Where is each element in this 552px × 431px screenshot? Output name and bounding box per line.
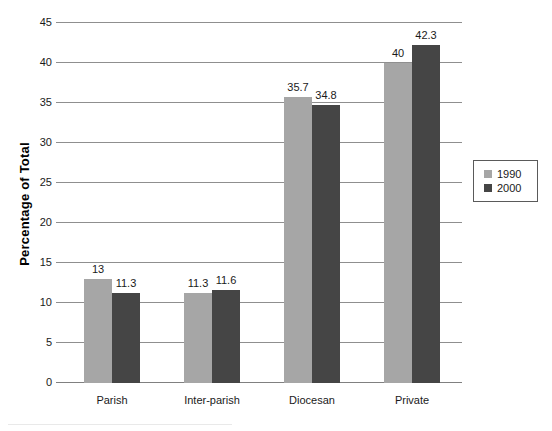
value-label: 11.3 xyxy=(101,277,151,290)
y-tick-label: 35 xyxy=(12,97,52,108)
bar-1990-private xyxy=(384,63,412,383)
y-tick-label: 15 xyxy=(12,257,52,268)
y-tick-label: 30 xyxy=(12,137,52,148)
legend-item-2000: 2000 xyxy=(484,181,537,195)
bar-chart: Percentage of Total 05101520253035404513… xyxy=(0,0,552,431)
y-tick-label: 0 xyxy=(12,377,52,388)
gridline xyxy=(56,22,462,23)
bar-2000-parish xyxy=(112,293,140,383)
y-tick-label: 5 xyxy=(12,337,52,348)
x-category-label: Diocesan xyxy=(262,394,362,406)
y-tick-label: 25 xyxy=(12,177,52,188)
y-tick-label: 40 xyxy=(12,57,52,68)
legend-label: 1990 xyxy=(497,167,521,181)
value-label: 11.6 xyxy=(201,274,251,287)
x-category-label: Private xyxy=(362,394,462,406)
y-tick-label: 20 xyxy=(12,217,52,228)
x-category-label: Inter-parish xyxy=(162,394,262,406)
y-tick-label: 45 xyxy=(12,17,52,28)
bar-1990-inter-parish xyxy=(184,293,212,383)
value-label: 13 xyxy=(73,263,123,276)
legend-swatch-1990 xyxy=(484,170,492,178)
bar-2000-private xyxy=(412,45,440,383)
y-axis-title: Percentage of Total xyxy=(17,24,35,384)
legend-item-1990: 1990 xyxy=(484,167,537,181)
scan-artifact-line xyxy=(8,424,232,425)
value-label: 42.3 xyxy=(401,29,451,42)
value-label: 34.8 xyxy=(301,89,351,102)
bar-1990-parish xyxy=(84,279,112,383)
bar-2000-diocesan xyxy=(312,105,340,383)
x-category-label: Parish xyxy=(62,394,162,406)
bar-2000-inter-parish xyxy=(212,290,240,383)
y-tick-label: 10 xyxy=(12,297,52,308)
bar-1990-diocesan xyxy=(284,97,312,383)
legend-label: 2000 xyxy=(497,181,521,195)
legend-swatch-2000 xyxy=(484,184,492,192)
legend: 19902000 xyxy=(473,160,538,202)
